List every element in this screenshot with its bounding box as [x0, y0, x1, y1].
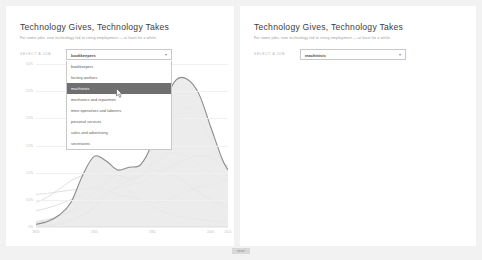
job-select-right[interactable]: machinists ▾: [300, 49, 406, 60]
chevron-down-icon: ▾: [399, 53, 401, 57]
select-label-right: SELECT A JOB: [254, 52, 285, 56]
chevron-down-icon: ▾: [165, 53, 167, 57]
x-axis-tick-label: 2000: [207, 230, 214, 234]
y-axis-tick-label: 0.5%: [26, 198, 33, 202]
gridline: [36, 227, 228, 228]
y-axis-tick-label: 0%: [29, 225, 33, 229]
reset-button[interactable]: reset: [232, 248, 250, 254]
dropdown-option-bookkeepers[interactable]: bookkeepers: [67, 61, 171, 72]
dropdown-option-mine-operatives-and-laborers[interactable]: mine operatives and laborers: [67, 105, 171, 116]
y-axis-tick-label: 2.0%: [26, 117, 33, 121]
panel-left: Technology Gives, Technology Takes For s…: [6, 6, 234, 246]
page-subtitle-right: For some jobs, new technology led to ris…: [254, 36, 391, 40]
page-title-right: Technology Gives, Technology Takes: [254, 22, 403, 32]
y-axis-tick-label: 1.0%: [26, 171, 33, 175]
x-axis-tick-label: 1850: [33, 230, 40, 234]
dropdown-option-factory-workers[interactable]: factory workers: [67, 72, 171, 83]
figure-caption: reset: [0, 248, 482, 254]
y-axis-tick-label: 3.0%: [26, 62, 33, 66]
job-dropdown-list[interactable]: bookkeepersfactory workersmachinistsmech…: [66, 61, 172, 150]
y-axis-tick-label: 2.5%: [26, 90, 33, 94]
y-axis-tick-label: 1.5%: [26, 144, 33, 148]
panel-right: Technology Gives, Technology Takes For s…: [240, 6, 476, 246]
page-title-left: Technology Gives, Technology Takes: [20, 22, 169, 32]
page-subtitle-left: For some jobs, new technology led to ris…: [20, 36, 157, 40]
dropdown-option-secretaries[interactable]: secretaries: [67, 138, 171, 149]
gridline: [36, 173, 228, 174]
gridline: [36, 200, 228, 201]
job-select-value-left: bookkeepers: [71, 53, 96, 58]
x-axis-tick-label: 1900: [91, 230, 98, 234]
job-select-left[interactable]: bookkeepers ▾: [66, 49, 172, 60]
select-label-left: SELECT A JOB: [20, 52, 51, 56]
job-select-value-right: machinists: [305, 53, 326, 58]
x-axis-tick-label: 1950: [149, 230, 156, 234]
dropdown-option-personal-services[interactable]: personal services: [67, 116, 171, 127]
dropdown-option-sales-and-advertising[interactable]: sales and advertising: [67, 127, 171, 138]
x-axis-tick-label: 2015: [225, 230, 232, 234]
screenshot-root: Technology Gives, Technology Takes For s…: [0, 0, 482, 260]
